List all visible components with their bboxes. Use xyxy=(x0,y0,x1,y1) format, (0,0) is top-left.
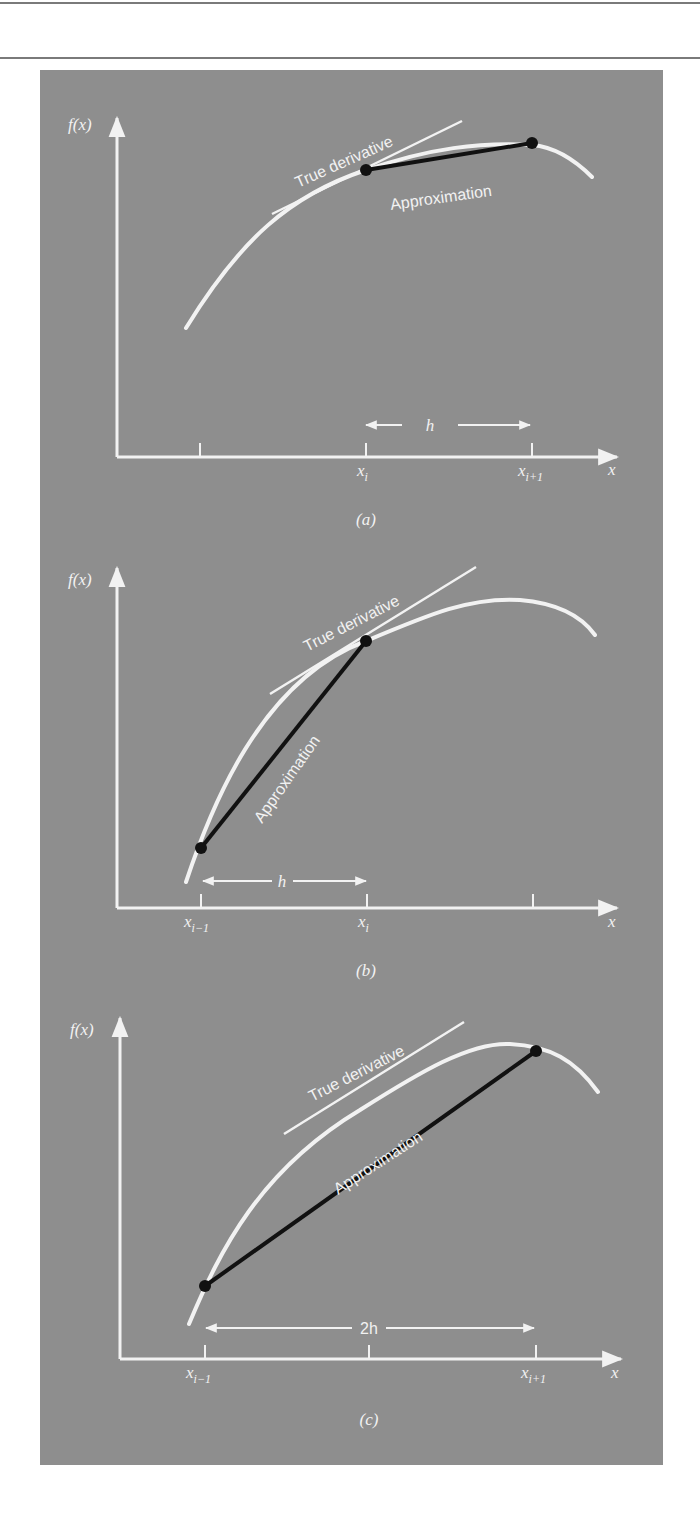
point-xi-minus-1 xyxy=(195,842,207,854)
interval-label: h xyxy=(426,416,435,435)
tick-label-xi-plus-1: xi+1 xyxy=(517,461,543,484)
finite-difference-figure: True derivative Approximation h f(x) x x… xyxy=(0,0,700,1526)
subfigure-c: True derivative Approximation 2h f(x) x … xyxy=(70,1018,621,1429)
tick-label-xi: xi xyxy=(357,912,369,935)
true-derivative-tangent xyxy=(270,567,476,694)
point-xi xyxy=(360,164,372,176)
true-derivative-label: True derivative xyxy=(306,1042,408,1105)
point-xi xyxy=(360,635,372,647)
tick-label-xi-minus-1: xi−1 xyxy=(185,1363,211,1386)
approximation-line xyxy=(201,641,366,848)
tick-label-xi-plus-1: xi+1 xyxy=(520,1363,546,1386)
function-curve xyxy=(189,1044,598,1324)
y-axis-label: f(x) xyxy=(68,115,92,134)
function-curve xyxy=(186,144,592,328)
y-axis-label: f(x) xyxy=(68,570,92,589)
tick-label-xi-minus-1: xi−1 xyxy=(183,912,209,935)
x-axis-label: x xyxy=(607,460,616,479)
interval-label: h xyxy=(278,872,287,891)
approximation-label: Approximation xyxy=(330,1128,425,1198)
tick-label-xi: xi xyxy=(356,461,368,484)
caption-c: (c) xyxy=(360,1410,379,1429)
function-curve xyxy=(186,600,595,882)
x-axis-label: x xyxy=(610,1363,619,1382)
x-axis-label: x xyxy=(607,912,616,931)
interval-label: 2h xyxy=(360,1320,378,1337)
point-xi-minus-1 xyxy=(199,1280,211,1292)
point-xi-plus-1 xyxy=(530,1045,542,1057)
true-derivative-tangent xyxy=(284,1022,464,1134)
subfigure-a: True derivative Approximation h f(x) x x… xyxy=(68,115,617,529)
caption-a: (a) xyxy=(356,510,376,529)
point-xi-plus-1 xyxy=(526,137,538,149)
subfigure-b: True derivative Approximation h f(x) x x… xyxy=(68,567,617,980)
approximation-label: Approximation xyxy=(389,182,493,213)
caption-b: (b) xyxy=(356,961,376,980)
approximation-label: Approximation xyxy=(251,732,324,826)
y-axis-label: f(x) xyxy=(70,1020,94,1039)
